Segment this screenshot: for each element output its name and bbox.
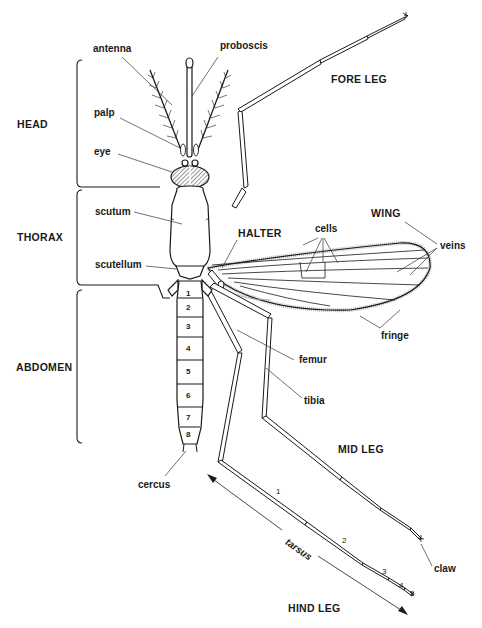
label-antenna: antenna <box>93 44 131 54</box>
abdomen-segment-3: 3 <box>186 323 190 331</box>
label-fringe: fringe <box>381 331 409 341</box>
mid-leg <box>210 283 424 542</box>
region-label-head: HEAD <box>17 119 48 130</box>
label-claw: claw <box>434 564 456 574</box>
label-tibia: tibia <box>304 396 325 406</box>
abdomen-segment-6: 6 <box>186 392 190 400</box>
label-hind-leg: HIND LEG <box>288 603 341 614</box>
abdomen-segment-8: 8 <box>186 431 190 439</box>
label-proboscis: proboscis <box>220 41 268 51</box>
tarsal-segment-4: 4 <box>399 582 403 590</box>
label-halter: HALTER <box>238 228 282 239</box>
tarsus-arrow <box>207 474 408 615</box>
label-cercus: cercus <box>138 480 170 490</box>
thorax-drawing <box>168 186 212 296</box>
region-brackets <box>77 60 170 443</box>
tarsal-segment-3: 3 <box>382 568 386 576</box>
mosquito-anatomy-diagram: HEAD THORAX ABDOMEN antenna proboscis pa… <box>0 0 482 628</box>
label-fore-leg: FORE LEG <box>331 74 387 85</box>
label-femur: femur <box>299 355 327 365</box>
region-label-abdomen: ABDOMEN <box>16 362 72 373</box>
mosquito-illustration <box>0 0 482 628</box>
tarsal-segment-1: 1 <box>276 488 280 496</box>
tarsal-segment-2: 2 <box>342 537 346 545</box>
label-scutellum: scutellum <box>95 260 142 270</box>
tarsal-segment-5: 5 <box>410 590 414 598</box>
label-palp: palp <box>94 108 115 118</box>
proboscis-drawing <box>186 58 193 157</box>
label-cells: cells <box>315 224 337 234</box>
abdomen-segment-5: 5 <box>186 368 190 376</box>
head-drawing <box>171 160 209 188</box>
label-mid-leg: MID LEG <box>338 444 384 455</box>
abdomen-segment-2: 2 <box>186 304 190 312</box>
region-label-thorax: THORAX <box>17 232 63 243</box>
label-eye: eye <box>94 147 111 157</box>
abdomen-segment-7: 7 <box>186 414 190 422</box>
label-veins: veins <box>440 241 466 251</box>
label-scutum: scutum <box>95 207 131 217</box>
label-wing: WING <box>371 208 401 219</box>
abdomen-segment-4: 4 <box>186 345 190 353</box>
abdomen-segment-1: 1 <box>186 290 190 298</box>
